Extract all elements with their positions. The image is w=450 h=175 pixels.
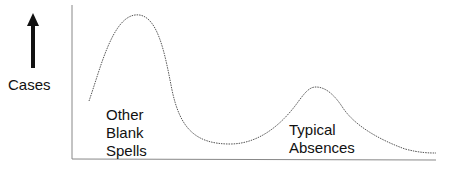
peak-label-other-blank-spells: Other Blank Spells (106, 106, 147, 160)
diagram-canvas (0, 0, 450, 175)
bimodal-diagram: Cases Other Blank Spells Typical Absence… (0, 0, 450, 175)
peak-label-line: Blank (106, 124, 147, 142)
peak-label-line: Absences (289, 139, 355, 157)
y-axis-label: Cases (8, 76, 51, 94)
peak-label-line: Typical (289, 121, 355, 139)
peak-label-line: Other (106, 106, 147, 124)
up-arrow-icon (27, 13, 39, 68)
peak-label-typical-absences: Typical Absences (289, 121, 355, 157)
peak-label-line: Spells (106, 142, 147, 160)
